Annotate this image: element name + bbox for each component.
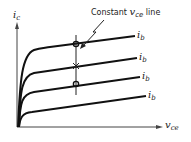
transistor-characteristic-plot bbox=[0, 0, 191, 142]
ib-label-2: ib bbox=[139, 52, 147, 65]
x-axis-label: vce bbox=[165, 120, 179, 133]
ib-label-3: ib bbox=[142, 71, 150, 84]
constant-vce-annotation: Constant vce line bbox=[91, 7, 160, 20]
ib-curve-3 bbox=[19, 77, 140, 127]
ib-label-1: ib bbox=[137, 30, 145, 43]
x-axis-arrow-icon bbox=[156, 125, 163, 129]
y-axis-label: ic bbox=[13, 10, 20, 23]
ib-label-4: ib bbox=[148, 90, 156, 103]
y-axis-arrow-icon bbox=[15, 22, 19, 29]
ib-curve-4 bbox=[19, 96, 146, 127]
